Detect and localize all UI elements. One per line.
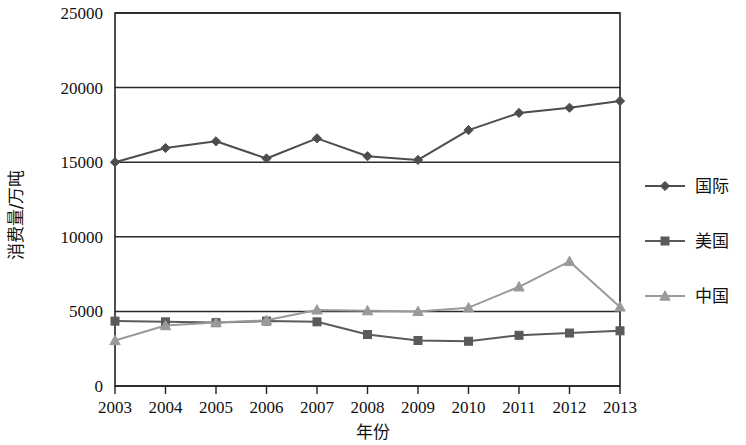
chart-canvas: 0500010000150002000025000 20032004200520… bbox=[0, 0, 746, 445]
x-tick-label-2006: 2006 bbox=[250, 398, 284, 417]
data-point-美国-2007 bbox=[313, 318, 321, 326]
data-point-美国-2003 bbox=[111, 317, 119, 325]
x-tick-label-2004: 2004 bbox=[149, 398, 184, 417]
y-axis-title: 消费量/万吨 bbox=[6, 170, 26, 261]
chart-background bbox=[0, 0, 746, 445]
legend-label-美国: 美国 bbox=[695, 231, 729, 251]
y-tick-label-25000: 25000 bbox=[61, 4, 104, 23]
x-tick-label-2011: 2011 bbox=[502, 398, 535, 417]
data-point-美国-2010 bbox=[465, 337, 473, 345]
data-point-美国-2012 bbox=[566, 329, 574, 337]
legend-marker-美国 bbox=[661, 237, 669, 245]
x-tick-label-2013: 2013 bbox=[603, 398, 637, 417]
line-chart: 0500010000150002000025000 20032004200520… bbox=[0, 0, 746, 445]
x-tick-label-2005: 2005 bbox=[199, 398, 233, 417]
data-point-美国-2009 bbox=[414, 336, 422, 344]
data-point-美国-2008 bbox=[364, 331, 372, 339]
legend-label-国际: 国际 bbox=[695, 176, 729, 196]
data-point-美国-2013 bbox=[616, 327, 624, 335]
x-tick-label-2008: 2008 bbox=[351, 398, 385, 417]
data-point-美国-2011 bbox=[515, 331, 523, 339]
legend-label-中国: 中国 bbox=[695, 286, 729, 306]
x-tick-label-2007: 2007 bbox=[300, 398, 335, 417]
x-tick-label-2012: 2012 bbox=[553, 398, 587, 417]
y-tick-label-10000: 10000 bbox=[61, 228, 104, 247]
x-tick-label-2009: 2009 bbox=[401, 398, 435, 417]
x-axis-title: 年份 bbox=[356, 422, 390, 442]
y-tick-label-15000: 15000 bbox=[61, 153, 104, 172]
x-axis-tick-labels: 2003200420052006200720082009201020112012… bbox=[98, 398, 637, 417]
x-tick-label-2010: 2010 bbox=[452, 398, 486, 417]
y-tick-label-5000: 5000 bbox=[69, 302, 103, 321]
y-tick-label-0: 0 bbox=[95, 377, 104, 396]
y-tick-label-20000: 20000 bbox=[61, 79, 104, 98]
x-tick-label-2003: 2003 bbox=[98, 398, 132, 417]
